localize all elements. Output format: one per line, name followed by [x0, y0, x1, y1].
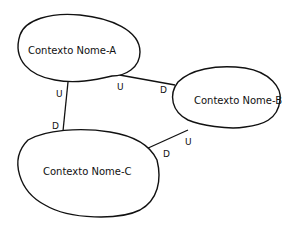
rel-a-b-downstream-label: D [160, 85, 167, 95]
rel-a-c-upstream-label: U [56, 89, 63, 99]
rel-b-c-downstream-label: D [163, 149, 170, 159]
context-a-label: Contexto Nome-A [28, 45, 116, 56]
context-b-label: Contexto Nome-B [194, 95, 282, 106]
context-c-label: Contexto Nome-C [43, 166, 132, 177]
rel-a-c-downstream-label: D [52, 121, 59, 131]
context-map-diagram: Contexto Nome-A Contexto Nome-B Contexto… [0, 0, 290, 226]
edge-b-c [146, 130, 188, 149]
diagram-canvas: Contexto Nome-A Contexto Nome-B Contexto… [0, 0, 290, 226]
rel-b-c-upstream-label: U [185, 137, 192, 147]
rel-a-b-upstream-label: U [117, 82, 124, 92]
edge-a-c [63, 82, 68, 131]
